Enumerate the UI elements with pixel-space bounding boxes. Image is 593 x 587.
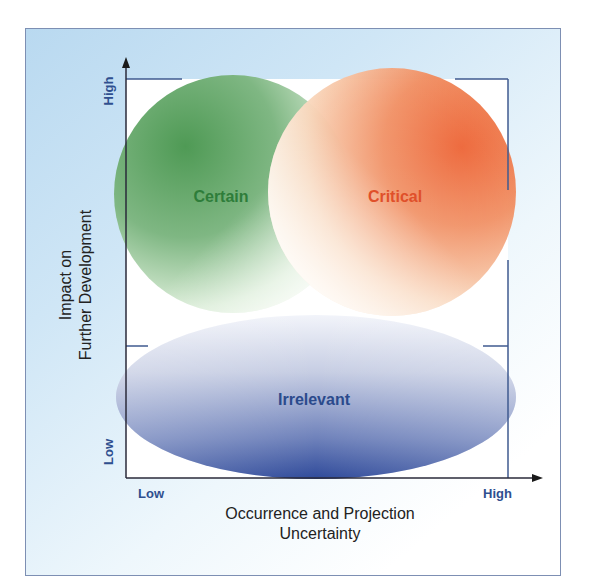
y-axis-arrow-icon	[122, 57, 130, 68]
x-axis-title-line1: Occurrence and Projection	[210, 504, 430, 524]
y-low-label: Low	[101, 439, 116, 465]
y-high-label: High	[101, 77, 116, 106]
x-axis-title: Occurrence and Projection Uncertainty	[210, 504, 430, 544]
x-axis-title-line2: Uncertainty	[210, 524, 430, 544]
x-axis-arrow-icon	[532, 474, 543, 482]
x-low-label: Low	[138, 486, 164, 501]
y-axis-title-line2: Further Development	[76, 210, 96, 360]
irrelevant-label: Irrelevant	[278, 391, 350, 409]
y-axis-title-line1: Impact on	[56, 210, 76, 360]
x-high-label: High	[483, 486, 512, 501]
y-axis-title: Impact on Further Development	[56, 210, 96, 360]
certain-label: Certain	[193, 188, 248, 206]
critical-label: Critical	[368, 188, 422, 206]
